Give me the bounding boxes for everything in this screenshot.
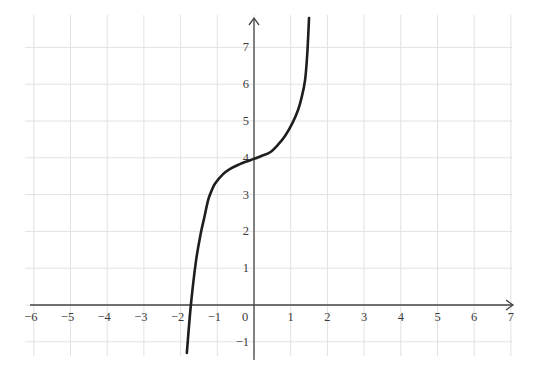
function-graph: −6−5−4−3−2−101234567 −11234567 — [0, 0, 540, 368]
x-tick-label: 6 — [471, 310, 477, 324]
x-tick-label: 3 — [361, 310, 367, 324]
axes — [30, 18, 513, 360]
y-tick-label: 2 — [243, 224, 249, 238]
x-tick-label: −3 — [134, 310, 147, 324]
x-tick-label: −1 — [208, 310, 221, 324]
x-tick-label: −5 — [61, 310, 74, 324]
y-tick-label: 5 — [243, 114, 249, 128]
x-tick-label: 5 — [434, 310, 440, 324]
x-tick-label: 0 — [242, 310, 248, 324]
y-tick-label: −1 — [236, 335, 249, 349]
x-tick-labels: −6−5−4−3−2−101234567 — [24, 310, 514, 324]
x-tick-label: 2 — [324, 310, 330, 324]
x-tick-label: 4 — [398, 310, 405, 324]
x-tick-label: 1 — [288, 310, 294, 324]
y-tick-label: 7 — [243, 40, 249, 54]
x-tick-label: −2 — [171, 310, 184, 324]
y-tick-label: 6 — [243, 77, 249, 91]
x-tick-label: −4 — [98, 310, 112, 324]
y-tick-label: 1 — [243, 261, 249, 275]
x-tick-label: 7 — [508, 310, 514, 324]
x-tick-label: −6 — [24, 310, 37, 324]
y-tick-label: 3 — [243, 188, 249, 202]
